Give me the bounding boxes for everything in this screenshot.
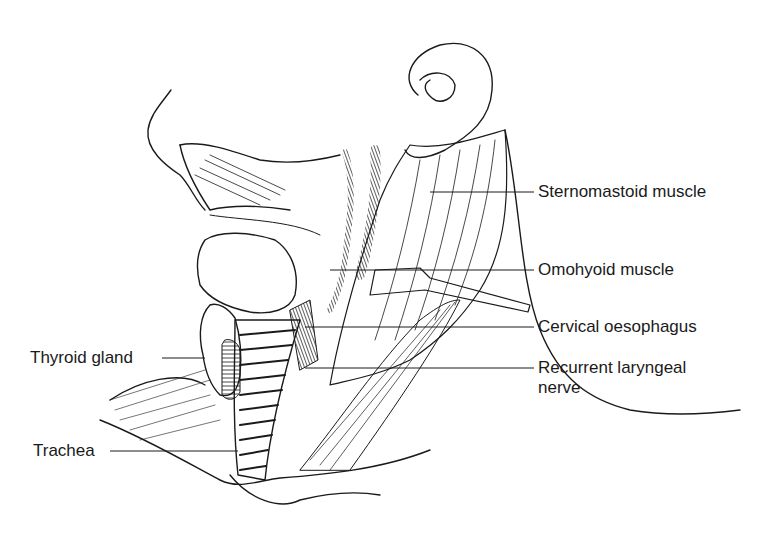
label-cervical-oesophagus: Cervical oesophagus xyxy=(538,317,697,337)
label-thyroid-gland: Thyroid gland xyxy=(30,348,133,368)
ear-outline xyxy=(405,43,492,157)
face-profile-outline xyxy=(148,90,205,210)
trachea xyxy=(234,320,300,480)
label-recurrent-laryngeal-nerve-line1: Recurrent laryngeal xyxy=(538,358,686,378)
label-sternomastoid-muscle: Sternomastoid muscle xyxy=(538,182,706,202)
carotid-vessels xyxy=(330,152,351,310)
thyroid-cartilage xyxy=(198,233,297,313)
label-omohyoid-muscle: Omohyoid muscle xyxy=(538,260,674,280)
label-recurrent-laryngeal-nerve-line2: nerve xyxy=(538,378,581,398)
mandible-outline xyxy=(180,144,340,162)
cervical-oesophagus xyxy=(290,300,318,370)
label-trachea: Trachea xyxy=(33,441,95,461)
